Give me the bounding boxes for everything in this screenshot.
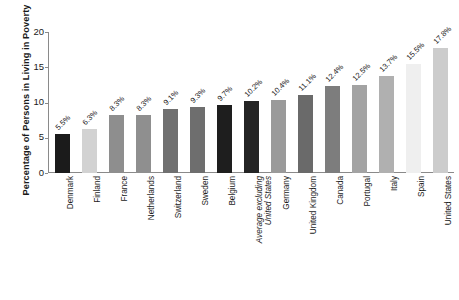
bar <box>325 86 339 173</box>
x-category-label-line: United States <box>444 176 453 225</box>
x-category-label-line: Portugal <box>363 176 372 207</box>
bar-value-label: 15.5% <box>405 40 427 62</box>
bar-value-label: 12.5% <box>351 61 373 83</box>
bar-value-label: 9.3% <box>189 87 208 106</box>
bar-slot: 11.1% <box>298 32 312 173</box>
x-category-label: United States <box>444 176 453 225</box>
bar-value-label: 5.5% <box>54 114 73 133</box>
bar-slot: 10.2% <box>244 32 258 173</box>
y-tick-label-0: 0 <box>22 167 44 178</box>
bar-slot: 13.7% <box>379 32 393 173</box>
bar-slot: 9.3% <box>190 32 204 173</box>
y-tick-label-20: 20 <box>22 26 44 37</box>
plot-area: 05101520 5.5%6.3%8.3%8.3%9.1%9.3%9.7%10.… <box>48 32 454 173</box>
bar-slot: 8.3% <box>136 32 150 173</box>
x-category-label: Canada <box>336 176 345 205</box>
bar <box>109 115 123 174</box>
x-category-label-line: Denmark <box>66 176 75 209</box>
bar-value-label: 11.1% <box>297 72 318 93</box>
bar <box>433 48 447 173</box>
x-category-label-line: Canada <box>336 176 345 205</box>
bar <box>136 115 150 174</box>
bar <box>82 129 96 173</box>
x-category-label: Portugal <box>363 176 372 207</box>
bar <box>244 101 258 173</box>
x-category-label-line: Sweden <box>201 176 210 206</box>
x-category-label: Netherlands <box>147 176 156 220</box>
x-category-label: Denmark <box>66 176 75 209</box>
x-category-label: Finland <box>93 176 102 203</box>
bar-slot: 12.4% <box>325 32 339 173</box>
poverty-bar-chart: Percentage of Persons in Living in Pover… <box>0 0 459 300</box>
bar-value-label: 17.8% <box>432 24 454 46</box>
x-category-label: Sweden <box>201 176 210 206</box>
y-tick-mark-15 <box>45 67 49 68</box>
bar-slot: 10.4% <box>271 32 285 173</box>
bar-slot: 6.3% <box>82 32 96 173</box>
x-category-label-line: Netherlands <box>147 176 156 220</box>
x-category-label: Average excludingUnited States <box>255 176 273 243</box>
bar-slot: 9.7% <box>217 32 231 173</box>
x-category-label-line: Italy <box>390 176 399 191</box>
y-tick-mark-5 <box>45 138 49 139</box>
bar-slot: 9.1% <box>163 32 177 173</box>
x-category-label-line: Switzerland <box>174 176 183 218</box>
x-category-label-line: Average excluding <box>255 176 264 243</box>
x-category-label: Germany <box>282 176 291 210</box>
y-tick-mark-20 <box>45 32 49 33</box>
bar-slot: 17.8% <box>433 32 447 173</box>
x-category-label-line: United States <box>264 176 273 243</box>
x-category-label: United Kingdom <box>309 176 318 234</box>
bar <box>55 134 69 173</box>
x-category-label: Belgium <box>228 176 237 206</box>
x-category-label: Switzerland <box>174 176 183 218</box>
bar <box>190 107 204 173</box>
x-category-label-line: United Kingdom <box>309 176 318 234</box>
bar-value-label: 13.7% <box>378 53 400 75</box>
bar <box>379 76 393 173</box>
x-category-label: Spain <box>417 176 426 197</box>
bar <box>298 95 312 173</box>
bar <box>352 85 366 173</box>
x-category-label-line: Germany <box>282 176 291 210</box>
bar <box>163 109 177 173</box>
y-tick-mark-10 <box>45 103 49 104</box>
bar <box>406 64 420 173</box>
bar-value-label: 6.3% <box>81 108 100 127</box>
y-tick-label-5: 5 <box>22 131 44 142</box>
bar-value-label: 8.3% <box>108 94 127 113</box>
x-category-label-line: Belgium <box>228 176 237 206</box>
bar-value-label: 9.1% <box>162 88 181 107</box>
bar-slot: 15.5% <box>406 32 420 173</box>
x-axis-category-labels: DenmarkFinlandFranceNetherlandsSwitzerla… <box>49 176 454 296</box>
x-category-label-line: Spain <box>417 176 426 197</box>
x-category-label-line: Finland <box>93 176 102 203</box>
y-tick-label-10: 10 <box>22 96 44 107</box>
bar-slot: 8.3% <box>109 32 123 173</box>
bar-slot: 5.5% <box>55 32 69 173</box>
x-category-label: Italy <box>390 176 399 191</box>
bar-series: 5.5%6.3%8.3%8.3%9.1%9.3%9.7%10.2%10.4%11… <box>49 32 454 173</box>
bar-value-label: 8.3% <box>135 94 154 113</box>
bar-value-label: 10.2% <box>243 77 265 99</box>
y-tick-mark-0 <box>45 173 49 174</box>
y-tick-label-15: 15 <box>22 61 44 72</box>
x-category-label-line: France <box>120 176 129 201</box>
bar <box>271 100 285 173</box>
bar-value-label: 9.7% <box>216 84 235 103</box>
bar <box>217 105 231 173</box>
bar-value-label: 10.4% <box>270 76 292 98</box>
x-category-label: France <box>120 176 129 201</box>
bar-slot: 12.5% <box>352 32 366 173</box>
bar-value-label: 12.4% <box>324 62 346 84</box>
